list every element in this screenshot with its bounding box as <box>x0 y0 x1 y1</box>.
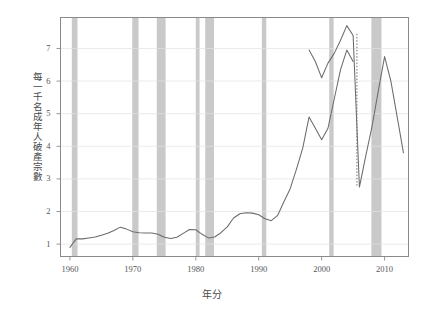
y-tick-marks-group <box>57 48 61 244</box>
x-tick-label: 1960 <box>50 264 90 274</box>
y-tick-label: 1 <box>37 239 51 249</box>
x-axis-title: 年分 <box>0 286 424 301</box>
x-tick-label: 1970 <box>113 264 153 274</box>
recession-band <box>262 18 266 257</box>
x-tick-marks-group <box>70 257 385 261</box>
plot-background <box>61 18 409 257</box>
y-tick-label: 5 <box>37 108 51 118</box>
recession-band <box>329 18 333 257</box>
bankruptcy-rate-chart-figure: 每一千名成年人破產宗數 年分 1234567 19601970198019902… <box>0 0 424 318</box>
recession-band <box>72 18 78 257</box>
y-tick-label: 7 <box>37 43 51 53</box>
y-tick-label: 4 <box>37 141 51 151</box>
recession-band <box>157 18 166 257</box>
recession-band <box>132 18 138 257</box>
y-axis-title: 每一千名成年人破產宗數 <box>26 72 42 182</box>
x-tick-label: 1980 <box>176 264 216 274</box>
y-tick-label: 2 <box>37 206 51 216</box>
x-tick-label: 2010 <box>365 264 405 274</box>
y-tick-label: 3 <box>37 173 51 183</box>
recession-band <box>196 18 200 257</box>
recession-band <box>371 18 381 257</box>
recession-band <box>205 18 214 257</box>
x-tick-label: 2000 <box>302 264 342 274</box>
x-tick-label: 1990 <box>239 264 279 274</box>
y-tick-label: 6 <box>37 76 51 86</box>
